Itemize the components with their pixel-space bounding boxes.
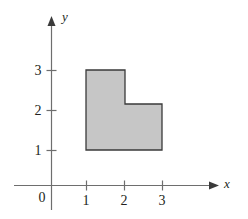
x-tick-label-3: 3 <box>159 193 166 208</box>
origin-label: 0 <box>39 190 46 205</box>
x-tick-label-1: 1 <box>83 193 90 208</box>
y-tick-label-3: 3 <box>35 63 42 78</box>
coordinate-plane-diagram: x y 0 1 2 3 1 2 3 <box>0 0 248 219</box>
x-axis-label: x <box>223 176 230 191</box>
y-tick-label-2: 2 <box>35 103 42 118</box>
figure-canvas: x y 0 1 2 3 1 2 3 <box>0 0 248 219</box>
y-axis-arrow-icon <box>48 16 56 26</box>
y-axis-label: y <box>60 9 68 24</box>
l-shaped-region <box>86 70 162 150</box>
y-tick-label-1: 1 <box>35 143 42 158</box>
x-axis-arrow-icon <box>209 182 219 190</box>
x-tick-label-2: 2 <box>121 193 128 208</box>
